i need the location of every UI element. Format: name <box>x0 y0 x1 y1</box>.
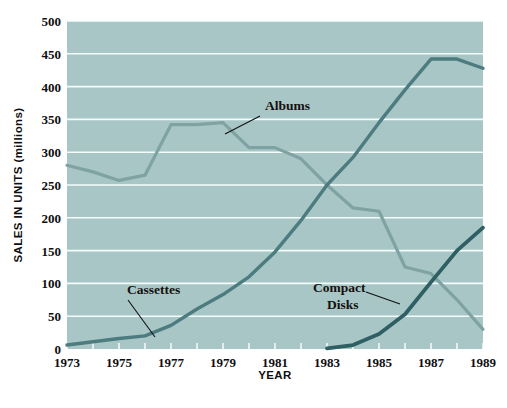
x-tick-label: 1989 <box>470 355 497 370</box>
y-tick-label: 300 <box>42 145 62 160</box>
x-tick-label: 1979 <box>210 355 237 370</box>
y-tick-label: 50 <box>48 309 61 324</box>
cassettes-label: Cassettes <box>127 282 180 297</box>
sales-line-chart: 050100150200250300350400450500 197319751… <box>0 0 507 408</box>
y-tick-label: 450 <box>42 47 62 62</box>
x-axis-tick-labels: 197319751977197919811983198519871989 <box>54 355 497 370</box>
x-tick-label: 1975 <box>106 355 133 370</box>
y-axis-title: SALES IN UNITS (millions) <box>12 107 24 262</box>
y-tick-label: 350 <box>42 112 62 127</box>
albums-label: Albums <box>265 98 310 113</box>
y-tick-label: 200 <box>42 211 62 226</box>
x-tick-label: 1981 <box>262 355 288 370</box>
x-tick-label: 1977 <box>158 355 185 370</box>
x-tick-label: 1985 <box>366 355 393 370</box>
chart-canvas: 050100150200250300350400450500 197319751… <box>0 0 507 408</box>
x-tick-label: 1973 <box>54 355 81 370</box>
x-axis-title: YEAR <box>258 369 292 381</box>
y-tick-label: 100 <box>42 276 62 291</box>
x-tick-label: 1987 <box>418 355 445 370</box>
y-tick-label: 400 <box>42 80 62 95</box>
y-tick-label: 500 <box>42 14 62 29</box>
x-tick-label: 1983 <box>314 355 341 370</box>
y-tick-label: 250 <box>42 178 62 193</box>
y-tick-label: 150 <box>42 244 62 259</box>
